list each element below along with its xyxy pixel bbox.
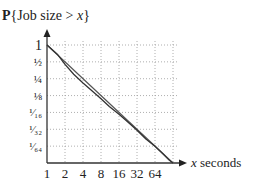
y-tick-label: ¼ [34,73,42,85]
x-tick-label: 1 [44,166,51,181]
y-tick-label: ½ [34,56,42,68]
chart: P{Job size > x} 12481632641½¼⅛¹⁄₁₆¹⁄₃₂¹⁄… [0,0,253,185]
x-tick-label: 16 [113,166,127,181]
y-tick-label: 1 [35,38,42,53]
x-axis-arrow-icon [179,160,187,167]
grid [47,41,177,163]
x-tick-label: 64 [149,166,163,181]
y-tick-label: ¹⁄₃₂ [29,123,42,135]
y-tick-label: ⅛ [34,90,43,102]
tick-labels: 12481632641½¼⅛¹⁄₁₆¹⁄₃₂¹⁄₆₄ [29,38,162,181]
x-axis-label: x seconds [190,155,241,170]
x-tick-label: 4 [80,166,87,181]
x-tick-label: 8 [98,166,105,181]
y-tick-label: ¹⁄₆₄ [29,140,42,152]
x-tick-label: 2 [62,166,69,181]
series [47,45,173,163]
chart-title: P{Job size > x} [2,8,90,23]
y-tick-label: ¹⁄₁₆ [29,106,42,118]
x-tick-label: 32 [131,166,144,181]
y-axis-arrow-icon [44,29,51,37]
